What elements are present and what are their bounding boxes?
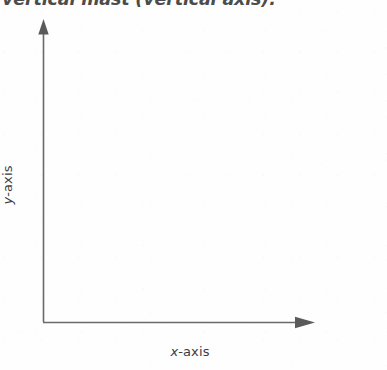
x-axis-arrowhead-icon xyxy=(295,317,315,328)
axes-drawing xyxy=(0,0,387,370)
y-axis-label: y-axis xyxy=(0,160,15,210)
x-axis-label: x-axis xyxy=(140,344,240,359)
y-axis-arrowhead-icon xyxy=(38,19,48,35)
y-axis-label-variable: y xyxy=(0,197,15,205)
x-axis-label-suffix: -axis xyxy=(178,344,209,359)
figure-canvas: vertical mast (vertical axis). y-axis x-… xyxy=(0,0,387,370)
y-axis-label-suffix: -axis xyxy=(0,165,15,196)
